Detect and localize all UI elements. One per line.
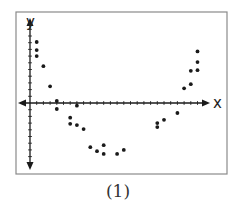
data-point — [88, 145, 92, 149]
data-point — [48, 84, 52, 88]
data-point — [55, 107, 59, 111]
data-point — [55, 99, 59, 103]
data-point — [68, 122, 72, 126]
data-point — [82, 127, 86, 131]
data-point — [75, 104, 79, 108]
data-point — [182, 86, 186, 90]
x-axis-label: x — [213, 94, 222, 112]
data-points — [35, 40, 200, 156]
x-axis-left-arrow-icon — [18, 100, 26, 107]
data-point — [35, 54, 39, 58]
y-axis-label: y — [26, 13, 35, 31]
data-point — [115, 152, 119, 156]
data-point — [176, 111, 180, 115]
data-point — [196, 68, 200, 72]
data-point — [196, 50, 200, 54]
plot-frame — [16, 12, 227, 174]
data-point — [189, 82, 193, 86]
data-point — [162, 118, 166, 122]
data-point — [102, 152, 106, 156]
data-point — [196, 60, 200, 64]
data-point — [155, 125, 159, 129]
data-point — [35, 40, 39, 44]
data-point — [42, 64, 46, 68]
data-point — [35, 48, 39, 52]
x-axis-right-arrow-icon — [202, 100, 210, 107]
data-point — [102, 143, 106, 147]
y-axis-down-arrow-icon — [27, 162, 34, 170]
data-point — [155, 121, 159, 125]
axes — [18, 18, 210, 170]
data-point — [95, 149, 99, 153]
data-point — [68, 116, 72, 120]
axis-ticks — [28, 29, 198, 156]
scatter-plot-figure: y x (1) — [0, 0, 237, 208]
data-point — [75, 123, 79, 127]
data-point — [189, 69, 193, 73]
figure-caption: (1) — [106, 181, 130, 201]
data-point — [122, 148, 126, 152]
